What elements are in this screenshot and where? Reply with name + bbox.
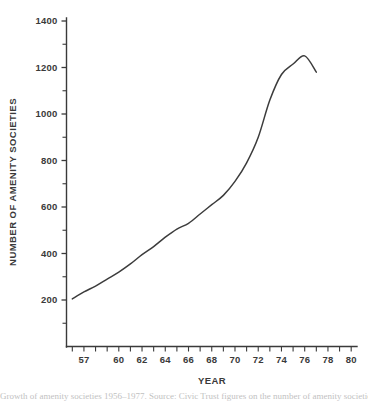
x-tick-label-1972: 72: [253, 354, 264, 365]
x-tick-label-1970: 70: [230, 354, 241, 365]
y-tick-label-400: 400: [41, 248, 57, 259]
y-tick-label-1200: 1200: [36, 62, 58, 73]
figure-caption: Growth of amenity societies 1956–1977. S…: [0, 392, 368, 401]
line-chart-svg: 200400600800100012001400 576062646668707…: [0, 0, 368, 401]
x-tick-label-1980: 80: [346, 354, 357, 365]
y-tick-label-800: 800: [41, 155, 57, 166]
x-tick-label-1968: 68: [206, 354, 217, 365]
x-tick-label-1964: 64: [160, 354, 171, 365]
y-tick-label-1400: 1400: [36, 15, 58, 26]
chart-figure: 200400600800100012001400 576062646668707…: [0, 0, 368, 401]
y-tick-label-200: 200: [41, 294, 57, 305]
x-tick-label-1976: 76: [299, 354, 310, 365]
y-axis-title: NUMBER OF AMENITY SOCIETIES: [7, 98, 18, 266]
x-tick-label-1957: 57: [78, 354, 89, 365]
x-tick-label-1978: 78: [322, 354, 333, 365]
x-tick-label-1962: 62: [137, 354, 148, 365]
x-tick-label-1974: 74: [276, 354, 287, 365]
x-tick-label-1960: 60: [113, 354, 124, 365]
y-tick-label-600: 600: [41, 201, 57, 212]
y-tick-label-1000: 1000: [36, 108, 58, 119]
x-tick-label-1966: 66: [183, 354, 194, 365]
x-axis-title: YEAR: [198, 375, 226, 386]
